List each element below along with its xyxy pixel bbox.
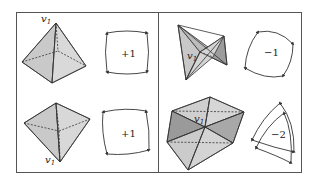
index-label: −2 <box>271 129 286 140</box>
panel-bottom-left: v1 +1 <box>24 103 149 167</box>
pyramid-apex-down <box>24 103 90 162</box>
panel-top-left: v1 +1 <box>22 13 149 83</box>
index-label: +1 <box>121 128 136 139</box>
pyramid-apex-up <box>22 23 86 83</box>
vertex-label: v1 <box>45 154 55 167</box>
diagram-figure: v1 +1 v1 −1 <box>0 0 316 183</box>
vertex-label: v1 <box>41 13 51 26</box>
panel-bottom-right: v1 −2 <box>167 97 294 170</box>
panel-top-right: v1 −1 <box>178 25 293 80</box>
index-label: −1 <box>264 47 279 58</box>
index-label: +1 <box>121 48 136 59</box>
folded-bowtie <box>178 25 227 80</box>
folded-star <box>167 97 244 170</box>
